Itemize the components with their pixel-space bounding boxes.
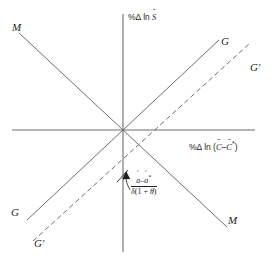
annotation-arrow	[126, 178, 130, 190]
denominator-open-paren: (1 +	[135, 187, 150, 196]
curve-label-g-prime-lower-left: G'	[34, 238, 44, 249]
circumflex-accent-icon: ̂	[216, 138, 222, 146]
x-axis-label-prefix: %Δ ln (	[189, 142, 216, 152]
curve-label-g-lower-left: G	[11, 207, 19, 218]
acute-accent-icon: ´	[135, 172, 140, 179]
curve-label-m-lower-right: M	[228, 215, 237, 226]
y-axis-variable-hat-group: ̂S	[152, 13, 156, 22]
curve-label-g-upper-right: G	[221, 36, 229, 47]
x-axis-label: %Δ ln (̂C–̂C*)	[189, 140, 238, 152]
y-axis-label: %Δ ln ̂S	[128, 13, 156, 22]
economics-diagram: %Δ ln ̂S %Δ ln (̂C–̂C*) M M G G G' G' ´a…	[0, 0, 276, 265]
shift-magnitude-annotation: ´a–´a* δ(1 + θ)	[131, 174, 157, 196]
circumflex-accent-icon: ̂	[226, 138, 232, 146]
numerator-star: *	[148, 173, 151, 180]
curve-label-m-upper-left: M	[12, 22, 21, 33]
denominator-close-paren: )	[154, 187, 157, 196]
curve-label-g-prime-upper-right: G'	[250, 62, 260, 73]
x-axis-close-paren: )	[235, 142, 238, 152]
numerator-var2-accent-group: ´a	[144, 177, 148, 185]
acute-accent-icon: ´	[143, 172, 148, 179]
annotation-numerator: ´a–´a*	[131, 174, 157, 187]
x-axis-variable1-hat-group: ̂C	[216, 143, 222, 152]
circumflex-accent-icon: ̂	[152, 8, 156, 16]
annotation-denominator: δ(1 + θ)	[131, 187, 157, 196]
x-axis-variable2-hat-group: ̂C	[226, 143, 232, 152]
numerator-var1-accent-group: ´a	[136, 177, 140, 185]
y-axis-label-prefix: %Δ ln	[128, 12, 152, 22]
